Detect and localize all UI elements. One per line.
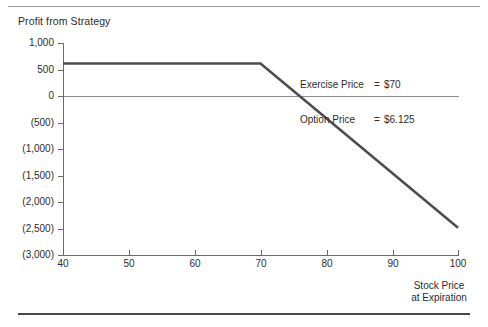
x-axis-title-line1: Stock Price — [393, 280, 485, 292]
annotation-label: Exercise Price — [300, 79, 374, 91]
annotation-value: $6.125 — [384, 114, 415, 126]
annotation-row-option-price: Option Price = $6.125 — [300, 114, 415, 126]
annotation-equals: = — [374, 114, 384, 126]
annotation-label: Option Price — [300, 114, 374, 126]
chart-figure: Profit from Strategy 1,000 500 0 (500) (… — [0, 0, 488, 327]
x-axis-title: Stock Price at Expiration — [393, 280, 485, 303]
x-axis-title-line2: at Expiration — [393, 292, 485, 304]
profit-line-series — [0, 0, 488, 327]
annotation-row-exercise-price: Exercise Price = $70 — [300, 79, 415, 91]
annotation-equals: = — [374, 79, 384, 91]
bottom-divider — [18, 313, 470, 315]
annotation-value: $70 — [384, 79, 401, 91]
chart-annotation: Exercise Price = $70 Option Price = $6.1… — [300, 56, 415, 148]
